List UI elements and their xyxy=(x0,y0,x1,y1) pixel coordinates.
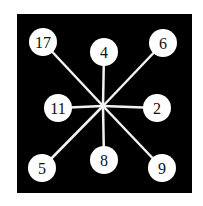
node-label: 6 xyxy=(159,35,167,52)
node-9: 9 xyxy=(148,154,176,182)
node-label: 17 xyxy=(35,34,51,51)
node-label: 11 xyxy=(50,100,65,117)
node-label: 4 xyxy=(100,44,108,61)
node-label: 5 xyxy=(38,160,46,177)
star-diagram: 1746112589 xyxy=(0,0,203,206)
node-6: 6 xyxy=(149,29,177,57)
node-4: 4 xyxy=(90,38,118,66)
node-2: 2 xyxy=(143,94,171,122)
node-label: 9 xyxy=(158,160,166,177)
node-11: 11 xyxy=(44,94,72,122)
node-5: 5 xyxy=(28,154,56,182)
node-label: 2 xyxy=(153,100,161,117)
node-8: 8 xyxy=(90,146,118,174)
node-label: 8 xyxy=(100,152,108,169)
node-17: 17 xyxy=(29,28,57,56)
